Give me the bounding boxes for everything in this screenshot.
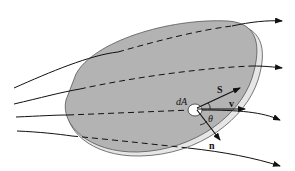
flux-diagram: dA S v θ n bbox=[0, 0, 295, 171]
surface-disk bbox=[65, 21, 262, 156]
label-v: v bbox=[229, 98, 234, 109]
label-n: n bbox=[209, 140, 215, 151]
label-dA: dA bbox=[176, 96, 188, 107]
label-theta: θ bbox=[208, 113, 213, 124]
label-S: S bbox=[217, 84, 223, 95]
